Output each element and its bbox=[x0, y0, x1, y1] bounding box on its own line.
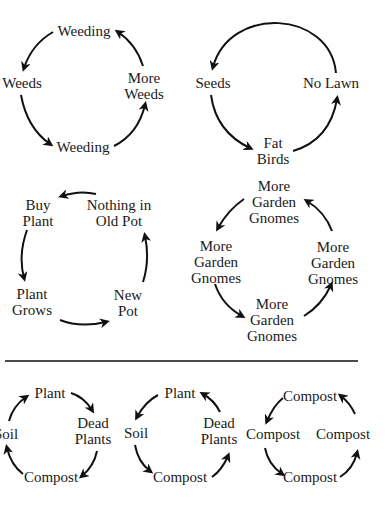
pot-node-nothing: Nothing in Old Pot bbox=[87, 197, 152, 229]
pot-node-newpot: New Pot bbox=[114, 287, 142, 319]
arrow-a-plant-to-deadplants bbox=[71, 393, 92, 410]
arrow-plantgrows-to-newpot bbox=[60, 320, 106, 325]
compost-c-node-bottom: Compost bbox=[283, 469, 337, 485]
arrow-c-bottom-to-right bbox=[340, 453, 357, 477]
compost-b-node-soil: Soil bbox=[124, 425, 148, 441]
arrow-moreweeds-to-weeding bbox=[118, 32, 143, 66]
weeds-node-top: Weeding bbox=[58, 23, 111, 39]
arrow-seeds-to-fatbirds bbox=[211, 95, 250, 148]
gnomes-node-bottom: More Garden Gnomes bbox=[247, 296, 297, 344]
compost-b-node-compost: Compost bbox=[153, 469, 207, 485]
arrow-gnomes-top-to-left bbox=[218, 199, 244, 228]
arrow-a-compost-to-soil bbox=[7, 448, 23, 474]
arrow-c-left-to-bottom bbox=[265, 448, 282, 474]
arrow-a-soil-to-plant bbox=[9, 397, 26, 421]
pot-node-buyplant: Buy Plant bbox=[23, 197, 54, 229]
arrow-buyplant-to-plantgrows bbox=[22, 230, 27, 278]
arrow-weeding-to-moreweeds bbox=[114, 105, 145, 146]
compost-c-node-top: Compost bbox=[283, 388, 337, 404]
lawn-node-seeds: Seeds bbox=[196, 75, 231, 91]
arrow-c-right-to-top bbox=[341, 396, 355, 414]
arrow-fatbirds-to-nolawn bbox=[293, 99, 337, 151]
compost-a-node-soil: Soil bbox=[0, 426, 18, 442]
arrow-newpot-to-nothing bbox=[143, 236, 147, 282]
pot-node-plantgrows: Plant Grows bbox=[12, 286, 52, 318]
compost-a-node-deadplants: Dead Plants bbox=[75, 415, 112, 447]
arrow-c-top-to-left bbox=[267, 398, 283, 421]
arrow-weeding-to-weeds bbox=[24, 32, 53, 68]
compost-c-node-left: Compost bbox=[246, 426, 300, 442]
arrow-gnomes-right-to-top bbox=[307, 201, 332, 231]
compost-b-node-plant: Plant bbox=[165, 385, 196, 401]
arrow-nothing-to-buyplant bbox=[62, 192, 96, 196]
arrow-b-compost-to-deadplants bbox=[212, 456, 228, 477]
cycle-diagrams-canvas: Weeding Weeds Weeding More Weeds Seeds F… bbox=[0, 0, 392, 515]
gnomes-node-left: More Garden Gnomes bbox=[191, 238, 241, 286]
compost-a-node-compost: Compost bbox=[24, 469, 78, 485]
arrow-nolawn-to-seeds bbox=[213, 23, 336, 73]
weeds-node-bottom: Weeding bbox=[57, 139, 110, 155]
arrow-weeds-to-weeding bbox=[21, 95, 50, 144]
weeds-node-left: Weeds bbox=[2, 75, 42, 91]
arrow-gnomes-left-to-bottom bbox=[215, 284, 242, 316]
weeds-node-right: More Weeds bbox=[124, 70, 164, 102]
gnomes-node-top: More Garden Gnomes bbox=[249, 178, 299, 226]
compost-b-node-deadplants: Dead Plants bbox=[201, 415, 238, 447]
arrow-b-deadplants-to-plant bbox=[203, 394, 220, 412]
arrow-b-soil-to-compost bbox=[135, 445, 150, 471]
arrow-a-deadplants-to-compost bbox=[82, 451, 97, 476]
arrow-gnomes-bottom-to-right bbox=[304, 285, 331, 316]
compost-c-node-right: Compost bbox=[316, 426, 370, 442]
arrow-b-plant-to-soil bbox=[137, 395, 158, 417]
lawn-node-nolawn: No Lawn bbox=[303, 75, 359, 91]
gnomes-node-right: More Garden Gnomes bbox=[308, 239, 358, 287]
compost-a-node-plant: Plant bbox=[35, 385, 66, 401]
lawn-node-fatbirds: Fat Birds bbox=[257, 135, 290, 167]
